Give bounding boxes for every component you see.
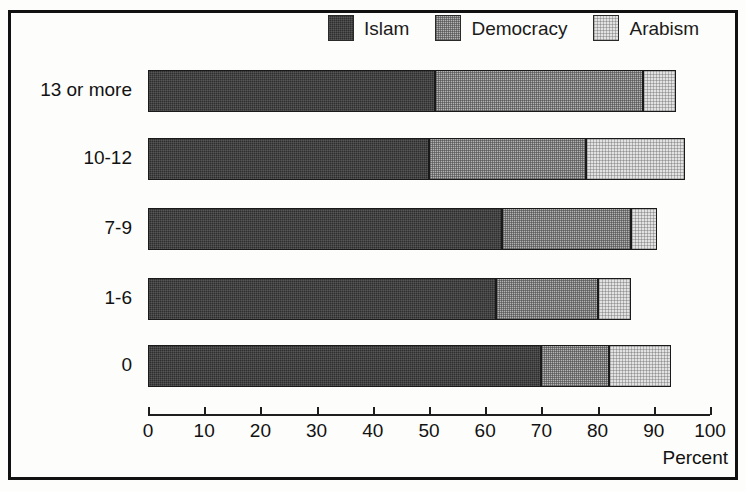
- x-axis-tick-label: 70: [511, 420, 571, 442]
- category-label: 13 or more: [12, 79, 132, 101]
- bar-row: [148, 138, 685, 180]
- x-axis-tick: [148, 407, 150, 415]
- x-axis-tick-label: 60: [455, 420, 515, 442]
- x-axis-tick: [429, 407, 431, 415]
- bar-segment-islam: [148, 138, 429, 180]
- bar-segment-islam: [148, 70, 435, 112]
- bar-segment-islam: [148, 208, 502, 250]
- x-axis-tick: [654, 407, 656, 415]
- bar-segment-democracy: [435, 70, 643, 112]
- bar-segment-arabism: [609, 345, 671, 387]
- category-label: 10-12: [12, 147, 132, 169]
- bar-segment-islam: [148, 278, 496, 320]
- bar-segment-democracy: [541, 345, 608, 387]
- x-axis-tick: [317, 407, 319, 415]
- x-axis-title: Percent: [560, 447, 728, 469]
- x-axis-tick: [204, 407, 206, 415]
- bar-segment-democracy: [496, 278, 597, 320]
- bar-segment-arabism: [598, 278, 632, 320]
- x-axis-tick: [541, 407, 543, 415]
- bar-segment-democracy: [429, 138, 586, 180]
- chart-figure: Islam Democracy Arabism 13 or more10-127…: [0, 0, 746, 491]
- x-axis-tick-label: 40: [343, 420, 403, 442]
- x-axis-tick: [710, 407, 712, 415]
- bar-row: [148, 345, 671, 387]
- bar-segment-arabism: [631, 208, 656, 250]
- x-axis-tick-label: 30: [287, 420, 347, 442]
- x-axis-tick-label: 90: [624, 420, 684, 442]
- category-label: 1-6: [12, 287, 132, 309]
- x-axis-tick-label: 10: [174, 420, 234, 442]
- bar-segment-islam: [148, 345, 541, 387]
- x-axis-tick: [260, 407, 262, 415]
- bar-row: [148, 278, 631, 320]
- bar-row: [148, 70, 676, 112]
- x-axis-tick-label: 100: [680, 420, 740, 442]
- plot-area: 13 or more10-127-91-60 01020304050607080…: [0, 0, 746, 491]
- bar-segment-democracy: [502, 208, 631, 250]
- x-axis-tick-label: 50: [399, 420, 459, 442]
- x-axis-tick-label: 0: [118, 420, 178, 442]
- bar-row: [148, 208, 657, 250]
- category-label: 7-9: [12, 217, 132, 239]
- bar-segment-arabism: [643, 70, 677, 112]
- x-axis-tick: [485, 407, 487, 415]
- x-axis-tick: [373, 407, 375, 415]
- x-axis-tick-label: 80: [568, 420, 628, 442]
- category-label: 0: [12, 354, 132, 376]
- bar-segment-arabism: [586, 138, 684, 180]
- x-axis-tick: [598, 407, 600, 415]
- x-axis-tick-label: 20: [230, 420, 290, 442]
